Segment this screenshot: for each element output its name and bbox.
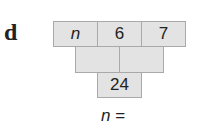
answer-prompt: n = (101, 106, 125, 126)
question-label: d (4, 20, 17, 44)
pyramid-cell-top-2: 6 (97, 21, 142, 47)
pyramid-cell-top-3: 7 (141, 21, 186, 47)
pyramid-cell-bottom: 24 (97, 72, 142, 98)
pyramid-cell-middle-1[interactable] (75, 46, 120, 73)
pyramid-cell-top-1: n (53, 21, 98, 47)
pyramid-cell-middle-2[interactable] (119, 46, 164, 73)
